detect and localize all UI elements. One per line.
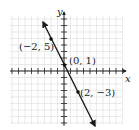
point-label-0-1: (0, 1) (69, 55, 96, 66)
point-0-1 (63, 63, 67, 67)
y-axis-label: y (56, 6, 63, 17)
coordinate-plane: (−2, 5) (0, 1) (2, −3) x y (0, 0, 139, 130)
point-label-2-neg3: (2, −3) (80, 87, 115, 98)
axes (10, 12, 126, 126)
x-axis-label: x (125, 73, 131, 84)
point-label-neg2-5: (−2, 5) (19, 41, 54, 52)
